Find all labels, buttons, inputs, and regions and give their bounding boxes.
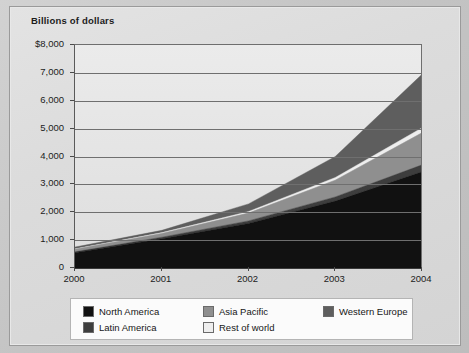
y-tick-label: 7,000 (10, 66, 64, 77)
y-tick-label: 5,000 (10, 122, 64, 133)
y-tick-mark (70, 44, 74, 45)
y-tick-label: 6,000 (10, 94, 64, 105)
legend-label: Western Europe (339, 307, 407, 317)
y-tick-mark (70, 183, 74, 184)
y-tick-label: 2,000 (10, 205, 64, 216)
x-tick-mark (421, 267, 422, 271)
gridline (75, 212, 422, 213)
legend-swatch-icon (83, 322, 94, 333)
legend-item-latin-america[interactable]: Latin America (83, 322, 157, 333)
y-tick-mark (70, 128, 74, 129)
x-tick-label: 2000 (63, 273, 84, 284)
legend-label: Rest of world (219, 323, 274, 333)
x-tick-mark (74, 267, 75, 271)
y-tick-label: 4,000 (10, 150, 64, 161)
gridline (75, 101, 422, 102)
legend-swatch-icon (203, 306, 214, 317)
y-tick-label: 0 (10, 261, 64, 272)
y-tick-label: 1,000 (10, 233, 64, 244)
gridline (75, 240, 422, 241)
y-tick-mark (70, 211, 74, 212)
chart-figure: Billions of dollars $8,0007,0006,0005,00… (9, 6, 461, 346)
legend-label: North America (99, 307, 159, 317)
x-tick-label: 2001 (150, 273, 171, 284)
gridline (75, 73, 422, 74)
y-tick-mark (70, 100, 74, 101)
plot-area (74, 44, 422, 268)
gridline (75, 184, 422, 185)
gridline (75, 129, 422, 130)
legend-item-western-europe[interactable]: Western Europe (323, 306, 407, 317)
legend-label: Asia Pacific (219, 307, 268, 317)
legend-swatch-icon (323, 306, 334, 317)
y-tick-mark (70, 156, 74, 157)
legend-swatch-icon (83, 306, 94, 317)
screenshot-root: Billions of dollars $8,0007,0006,0005,00… (0, 0, 469, 353)
x-tick-mark (248, 267, 249, 271)
axis-title: Billions of dollars (31, 15, 115, 26)
y-tick-mark (70, 72, 74, 73)
legend-label: Latin America (99, 323, 157, 333)
x-tick-label: 2004 (410, 273, 431, 284)
y-tick-mark (70, 239, 74, 240)
legend-item-north-america[interactable]: North America (83, 306, 159, 317)
x-tick-mark (334, 267, 335, 271)
x-tick-label: 2002 (237, 273, 258, 284)
y-tick-label: $8,000 (10, 38, 64, 49)
legend-item-rest-of-world[interactable]: Rest of world (203, 322, 274, 333)
y-tick-label: 3,000 (10, 177, 64, 188)
x-tick-label: 2003 (324, 273, 345, 284)
chart-legend: North AmericaAsia PacificWestern EuropeL… (70, 298, 413, 340)
x-tick-mark (161, 267, 162, 271)
legend-item-asia-pacific[interactable]: Asia Pacific (203, 306, 268, 317)
gridline (75, 157, 422, 158)
legend-swatch-icon (203, 322, 214, 333)
